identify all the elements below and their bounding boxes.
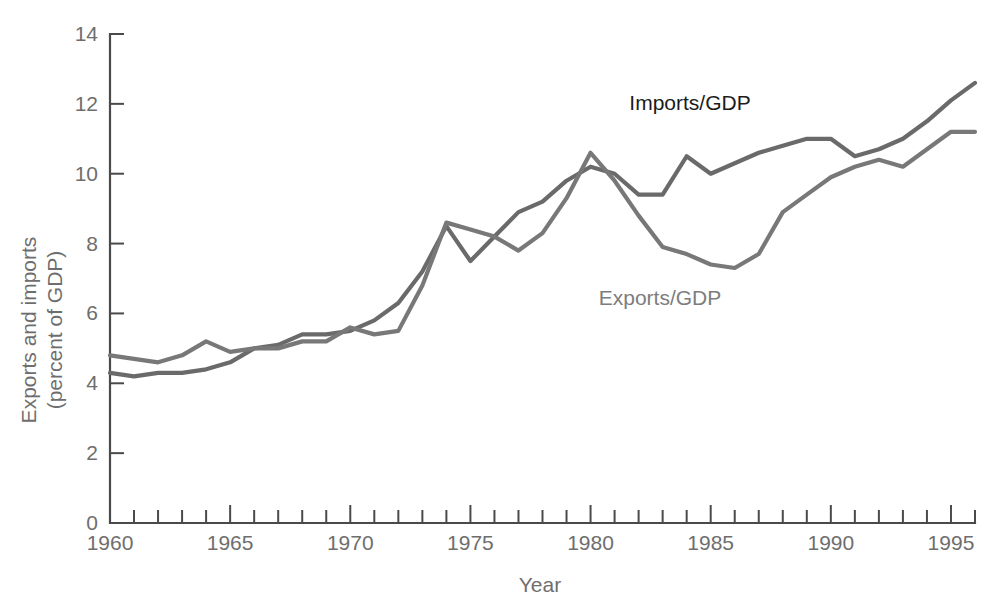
x-axis-tick-label: 1960 [87, 531, 134, 554]
series-line-exports [110, 132, 975, 363]
series-label-exports: Exports/GDP [599, 286, 722, 309]
y-axis-tick-label: 10 [75, 162, 98, 185]
line-chart: 02468101214 1960196519701975198019851990… [0, 0, 996, 603]
y-axis-tick-labels: 02468101214 [75, 22, 99, 534]
x-axis-title: Year [519, 573, 561, 596]
x-axis-tick-label: 1975 [447, 531, 494, 554]
x-axis-tick-label: 1995 [928, 531, 975, 554]
chart-container: 02468101214 1960196519701975198019851990… [0, 0, 996, 603]
y-axis-tick-label: 14 [75, 22, 99, 45]
y-axis-tick-label: 2 [86, 441, 98, 464]
x-axis-tick-label: 1980 [567, 531, 614, 554]
chart-ticks [110, 34, 975, 523]
y-axis-tick-label: 12 [75, 92, 98, 115]
x-axis-tick-label: 1970 [327, 531, 374, 554]
chart-axes [110, 34, 975, 523]
y-axis-tick-label: 4 [86, 371, 98, 394]
chart-series-group [110, 83, 975, 376]
x-axis-tick-labels: 19601965197019751980198519901995 [87, 531, 975, 554]
y-axis-title-line2: (percent of GDP) [43, 251, 66, 410]
x-axis-tick-label: 1965 [207, 531, 254, 554]
x-axis-tick-label: 1990 [807, 531, 854, 554]
y-axis-tick-label: 8 [86, 232, 98, 255]
chart-series-labels: Imports/GDPExports/GDP [599, 91, 751, 309]
y-axis-tick-label: 6 [86, 301, 98, 324]
axis-spine [110, 34, 975, 523]
y-axis-title-line1: Exports and imports [17, 237, 40, 424]
x-axis-tick-label: 1985 [687, 531, 734, 554]
series-label-imports: Imports/GDP [629, 91, 750, 114]
